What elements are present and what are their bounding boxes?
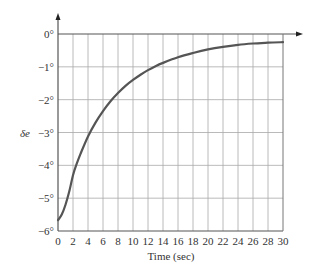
x-axis-arrow-icon	[296, 32, 303, 37]
x-tick-label: 28	[263, 235, 275, 247]
x-tick-label: 26	[248, 235, 260, 247]
y-tick-label: −1°	[38, 61, 54, 73]
x-tick-label: 30	[278, 235, 290, 247]
data-series-line	[58, 42, 283, 220]
x-axis-label: Time (sec)	[148, 250, 195, 263]
y-tick-label: 0°	[44, 28, 54, 40]
x-tick-label: 10	[128, 235, 140, 247]
x-tick-label: 0	[55, 235, 61, 247]
x-tick-label: 20	[203, 235, 215, 247]
x-tick-label: 4	[85, 235, 91, 247]
x-tick-label: 12	[143, 235, 154, 247]
y-tick-label: −2°	[38, 94, 54, 106]
x-tick-label: 22	[218, 235, 229, 247]
y-tick-label: −5°	[38, 192, 54, 204]
line-chart: 024681012141618202224262830 0°−1°−2°−3°−…	[0, 0, 316, 275]
y-tick-label: −4°	[38, 159, 54, 171]
x-tick-label: 18	[188, 235, 200, 247]
x-tick-label: 14	[158, 235, 170, 247]
x-tick-label: 24	[233, 235, 245, 247]
x-tick-labels: 024681012141618202224262830	[55, 235, 289, 247]
y-axis-arrow-icon	[56, 13, 61, 20]
y-tick-label: −3°	[38, 127, 54, 139]
y-tick-labels: 0°−1°−2°−3°−4°−5°−6°	[38, 28, 54, 237]
y-tick-label: −6°	[38, 225, 54, 237]
grid-lines	[58, 34, 283, 231]
x-tick-label: 6	[100, 235, 106, 247]
x-tick-label: 8	[115, 235, 121, 247]
y-axis-label: δe	[20, 127, 30, 139]
x-tick-label: 16	[173, 235, 185, 247]
x-tick-label: 2	[70, 235, 76, 247]
